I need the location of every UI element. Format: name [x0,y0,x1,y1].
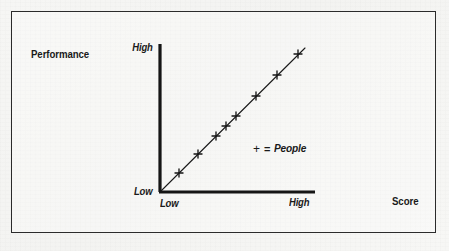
data-point-marker [273,71,281,79]
x-axis-tick-low: Low [160,198,178,209]
x-axis-tick-high: High [289,197,309,208]
legend: + = People [253,143,311,155]
y-axis-tick-high: High [132,42,152,53]
figure-screenshot: Performance Score High Low Low High + = … [0,0,449,251]
legend-equals-sign: = [264,144,270,155]
data-point-marker [294,50,302,58]
y-axis-title: Performance [31,49,89,61]
legend-plus-icon: + [253,143,260,155]
y-axis-tick-low: Low [134,186,152,197]
plot-canvas [0,0,449,251]
legend-series-label: People [274,143,306,155]
x-axis-title: Score [392,196,418,208]
trend-line [161,48,305,191]
